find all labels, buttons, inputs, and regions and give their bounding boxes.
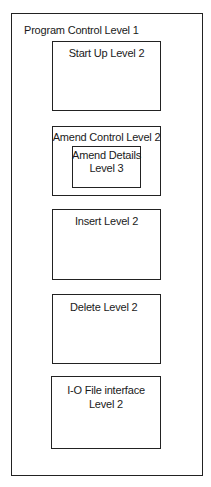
io-file-interface-box: I-O File interface Level 2: [51, 376, 161, 449]
io-file-interface-label-line2: Level 2: [52, 397, 160, 411]
amend-control-label: Amend Control Level 2: [51, 131, 162, 144]
delete-label: Delete Level 2: [70, 301, 138, 314]
io-file-interface-label: I-O File interface Level 2: [52, 383, 160, 411]
amend-details-label: Amend Details Level 3: [71, 149, 142, 175]
insert-box: Insert Level 2: [52, 209, 161, 280]
start-up-box: Start Up Level 2: [52, 41, 161, 111]
amend-details-box: Amend Details Level 3: [72, 146, 141, 188]
io-file-interface-label-line1: I-O File interface: [52, 383, 160, 397]
insert-label: Insert Level 2: [53, 215, 160, 228]
amend-details-label-line1: Amend Details: [71, 149, 142, 162]
program-control-label: Program Control Level 1: [24, 24, 139, 37]
start-up-label: Start Up Level 2: [53, 47, 160, 60]
amend-control-box: Amend Control Level 2 Amend Details Leve…: [52, 126, 161, 196]
delete-box: Delete Level 2: [52, 294, 161, 364]
amend-details-label-line2: Level 3: [71, 162, 142, 175]
